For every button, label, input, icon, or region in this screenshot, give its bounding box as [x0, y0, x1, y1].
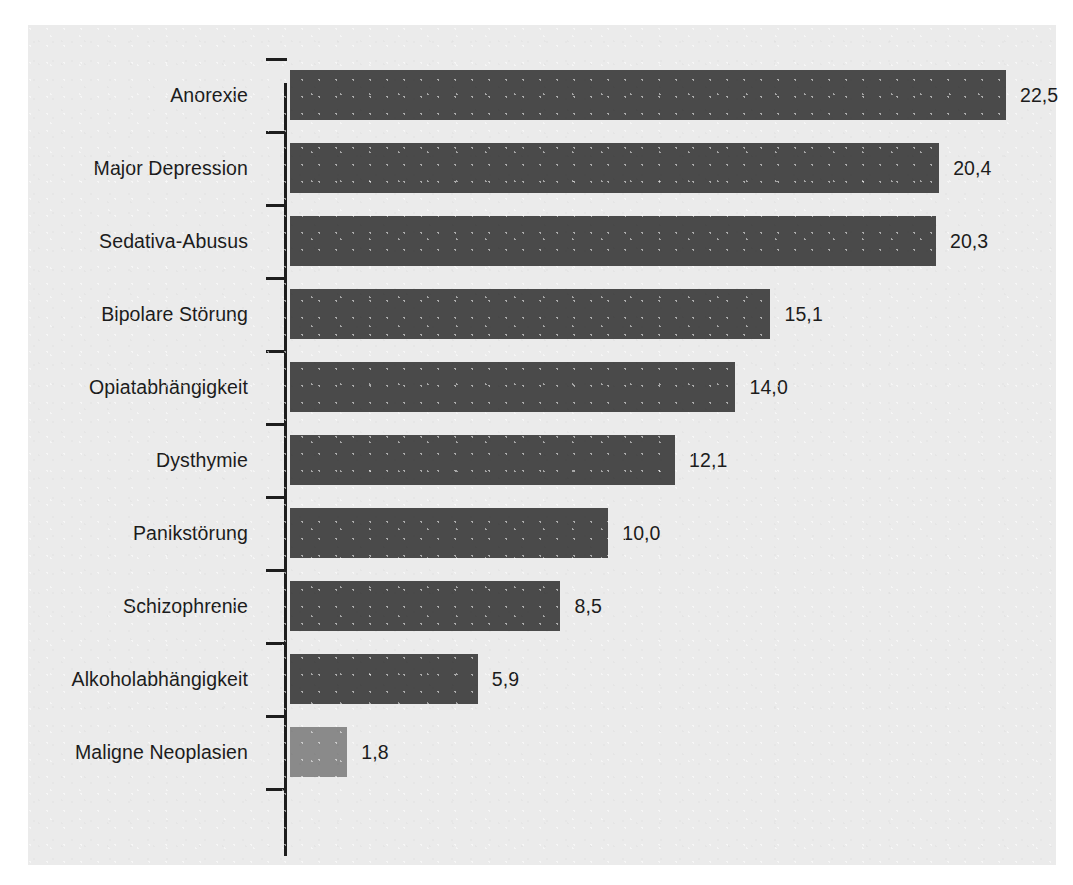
axis-tick: [266, 496, 287, 499]
bar-value-label: 5,9: [492, 668, 519, 691]
bar-value-label: 10,0: [622, 522, 660, 545]
bar: [290, 289, 770, 339]
bar-value-label: 22,5: [1020, 84, 1058, 107]
bar-chart-plot-area: Anorexie22,5Major Depression20,4Sedativa…: [28, 25, 1056, 865]
bar-row: Bipolare Störung15,1: [28, 289, 1056, 339]
bar: [290, 654, 478, 704]
bar-row: Major Depression20,4: [28, 143, 1056, 193]
category-label: Dysthymie: [156, 449, 248, 472]
axis-tick: [266, 131, 287, 134]
axis-tick: [266, 277, 287, 280]
bar-value-label: 20,4: [953, 157, 991, 180]
axis-tick: [266, 715, 287, 718]
bar-row: Opiatabhängigkeit14,0: [28, 362, 1056, 412]
category-label: Alkoholabhängigkeit: [72, 668, 248, 691]
category-label: Anorexie: [170, 84, 248, 107]
axis-tick: [266, 423, 287, 426]
axis-tick: [266, 569, 287, 572]
bar: [290, 143, 939, 193]
bar: [290, 727, 347, 777]
category-label: Sedativa-Abusus: [99, 230, 248, 253]
bar-value-label: 14,0: [749, 376, 787, 399]
bar: [290, 435, 675, 485]
bar: [290, 581, 560, 631]
bar-value-label: 15,1: [784, 303, 822, 326]
bar: [290, 216, 936, 266]
axis-tick: [266, 204, 287, 207]
bar-value-label: 8,5: [574, 595, 601, 618]
bar: [290, 508, 608, 558]
bar-row: Maligne Neoplasien1,8: [28, 727, 1056, 777]
category-label: Opiatabhängigkeit: [89, 376, 248, 399]
scanned-paper-panel: Anorexie22,5Major Depression20,4Sedativa…: [28, 25, 1056, 865]
axis-tick: [266, 642, 287, 645]
axis-tick: [266, 788, 287, 791]
category-label: Panikstörung: [133, 522, 248, 545]
chart-page: Anorexie22,5Major Depression20,4Sedativa…: [0, 0, 1073, 885]
axis-tick: [266, 58, 287, 61]
bar-value-label: 20,3: [950, 230, 988, 253]
bar: [290, 362, 735, 412]
category-label: Schizophrenie: [123, 595, 248, 618]
bar: [290, 70, 1006, 120]
category-label: Bipolare Störung: [101, 303, 248, 326]
axis-tick: [266, 350, 287, 353]
category-label: Major Depression: [94, 157, 248, 180]
bar-row: Dysthymie12,1: [28, 435, 1056, 485]
bar-row: Anorexie22,5: [28, 70, 1056, 120]
bar-value-label: 12,1: [689, 449, 727, 472]
bar-row: Schizophrenie8,5: [28, 581, 1056, 631]
bar-value-label: 1,8: [361, 741, 388, 764]
bar-row: Panikstörung10,0: [28, 508, 1056, 558]
category-label: Maligne Neoplasien: [75, 741, 248, 764]
bar-row: Alkoholabhängigkeit5,9: [28, 654, 1056, 704]
bar-row: Sedativa-Abusus20,3: [28, 216, 1056, 266]
